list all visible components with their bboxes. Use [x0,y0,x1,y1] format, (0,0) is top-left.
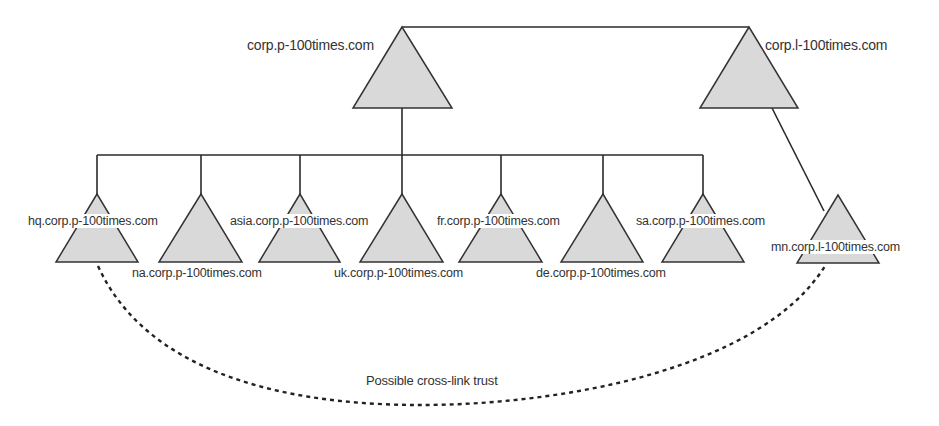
domain-triangle-hq [56,194,138,262]
diagram-graphics [0,0,939,426]
child-label-na: na.corp.p-100times.com [132,266,262,280]
root-label-corp-p: corp.p-100times.com [247,37,374,53]
domain-triangle-na [159,194,242,262]
child-label-uk: uk.corp.p-100times.com [334,266,463,280]
child-label-hq: hq.corp.p-100times.com [27,214,159,228]
child-label-sa: sa.corp.p-100times.com [635,214,766,228]
domain-triangle-uk [360,194,443,262]
domain-triangle-de [561,194,643,262]
domain-triangle-asia [259,194,340,262]
child-label-de: de.corp.p-100times.com [536,266,666,280]
child-label-asia: asia.corp.p-100times.com [229,214,369,228]
cross-link-trust-label: Possible cross-link trust [366,374,498,388]
corp-l-to-mn-connector [772,108,824,211]
domain-triangle-fr [459,194,542,262]
child-label-mn: mn.corp.l-100times.com [770,240,901,254]
root-label-corp-l: corp.l-100times.com [765,37,887,53]
child-label-fr: fr.corp.p-100times.com [436,214,561,228]
forest-trust-diagram: corp.p-100times.com corp.l-100times.com … [0,0,939,426]
domain-triangle-sa [662,194,744,262]
